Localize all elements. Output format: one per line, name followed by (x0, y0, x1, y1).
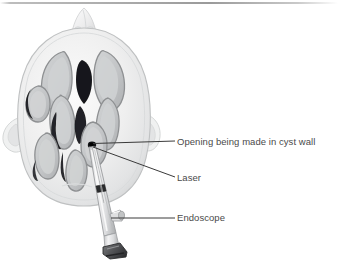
figure-canvas: Opening being made in cyst wall Laser En… (0, 0, 338, 264)
annotation-label-opening: Opening being made in cyst wall (177, 136, 315, 147)
annotation-label-endoscope: Endoscope (177, 212, 225, 223)
head-endoscopy-illustration (0, 0, 338, 264)
annotation-label-laser: Laser (177, 172, 201, 183)
